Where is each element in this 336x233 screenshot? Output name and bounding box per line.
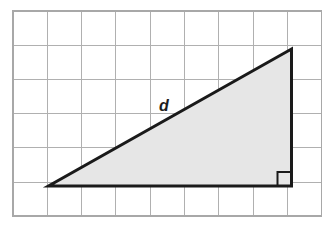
hypotenuse-label: d <box>159 97 170 114</box>
figure-container: d <box>0 0 336 233</box>
triangle-figure: d <box>0 0 336 233</box>
